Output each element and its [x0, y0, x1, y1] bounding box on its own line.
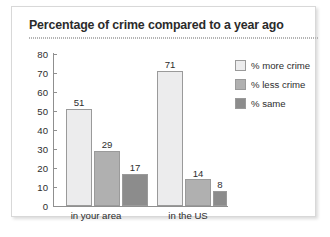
legend-item-more-crime[interactable]: % more crime: [235, 57, 310, 74]
chart-canvas: Percentage of crime compared to a year a…: [0, 0, 330, 237]
plot-area: [53, 54, 227, 206]
legend-label-same: % same: [251, 98, 286, 109]
legend-label-more-crime: % more crime: [251, 60, 310, 71]
y-tick-label-30: 30: [12, 145, 48, 155]
y-tick-label-80: 80: [12, 50, 48, 60]
legend-item-less-crime[interactable]: % less crime: [235, 76, 310, 93]
chart-title: Percentage of crime compared to a year a…: [29, 18, 284, 32]
bar-value-in-your-area-same: 17: [122, 163, 148, 173]
x-category-label-in-the-us: in the US: [146, 210, 230, 221]
bar-value-in-the-us-less-crime: 14: [185, 169, 211, 179]
y-tick-label-60: 60: [12, 88, 48, 98]
bar-in-your-area-same[interactable]: [122, 174, 148, 206]
legend-swatch-more-crime: [235, 60, 246, 71]
bar-value-in-the-us-more-crime: 71: [157, 60, 183, 70]
bar-value-in-your-area-less-crime: 29: [94, 140, 120, 150]
chart-card: Percentage of crime compared to a year a…: [11, 6, 316, 217]
legend-item-same[interactable]: % same: [235, 95, 310, 112]
x-category-label-in-your-area: in your area: [54, 210, 138, 221]
y-tick-label-10: 10: [12, 183, 48, 193]
bar-value-in-the-us-same: 8: [207, 180, 233, 190]
x-axis-line: [53, 206, 228, 207]
y-tick-label-40: 40: [12, 126, 48, 136]
bar-in-your-area-more-crime[interactable]: [66, 109, 92, 206]
legend-label-less-crime: % less crime: [251, 79, 305, 90]
y-tick-label-20: 20: [12, 164, 48, 174]
y-tick-label-0: 0: [12, 202, 48, 212]
legend-swatch-same: [235, 98, 246, 109]
bar-in-your-area-less-crime[interactable]: [94, 151, 120, 206]
title-divider: [29, 37, 319, 39]
chart-legend: % more crime % less crime % same: [235, 57, 310, 114]
legend-swatch-less-crime: [235, 79, 246, 90]
y-tick-label-50: 50: [12, 107, 48, 117]
bar-in-the-us-more-crime[interactable]: [157, 71, 183, 206]
bar-value-in-your-area-more-crime: 51: [66, 98, 92, 108]
y-tick-label-70: 70: [12, 69, 48, 79]
bar-in-the-us-same[interactable]: [213, 191, 227, 206]
